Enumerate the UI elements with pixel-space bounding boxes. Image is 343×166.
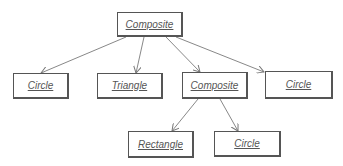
- node-label: Rectangle: [138, 139, 183, 150]
- node-composite-root: Composite: [117, 12, 183, 37]
- node-composite-child: Composite: [182, 72, 248, 99]
- edge-composite-to-rectangle: [172, 99, 198, 131]
- edge-composite-to-circle: [41, 37, 126, 73]
- node-circle-left: Circle: [13, 73, 69, 99]
- edge-composite-to-triangle: [136, 37, 144, 73]
- node-label: Circle: [28, 80, 54, 91]
- node-circle-bottom: Circle: [214, 131, 281, 157]
- node-label: Circle: [286, 79, 312, 90]
- edge-composite-to-circle-right: [176, 37, 264, 72]
- node-rectangle: Rectangle: [128, 131, 194, 158]
- node-label: Circle: [234, 138, 260, 149]
- edge-composite-to-circle-bottom: [220, 99, 238, 131]
- node-label: Composite: [126, 19, 174, 30]
- node-label: Triangle: [112, 80, 147, 91]
- node-circle-right: Circle: [265, 71, 333, 99]
- node-triangle: Triangle: [97, 73, 163, 99]
- edge-composite-to-composite: [166, 37, 200, 72]
- node-label: Composite: [191, 80, 239, 91]
